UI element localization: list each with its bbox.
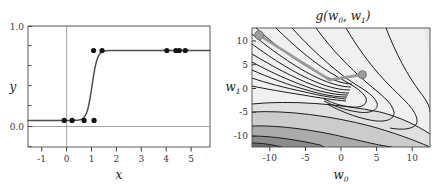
x-axis-ticks — [42, 147, 191, 152]
title-arg1: w — [347, 9, 362, 23]
x-tick-label-1: 0 — [64, 154, 70, 164]
panel-title: g(w0, w1) — [316, 9, 371, 25]
title-close: ) — [365, 9, 371, 23]
data-point — [164, 48, 169, 53]
y-tick-label-neg5: -5 — [239, 107, 248, 117]
y-tick-label-10: 10 — [237, 36, 249, 46]
data-point — [70, 118, 75, 123]
x-tick-label-0: -1 — [37, 154, 46, 164]
x-axis-title: w0 — [333, 168, 348, 184]
data-point — [91, 118, 96, 123]
x-tick-label-2: 1 — [89, 154, 95, 164]
x-axis-title-sub: 0 — [344, 175, 349, 184]
plot-frame — [28, 26, 210, 147]
x-tick-label-4: 3 — [138, 154, 144, 164]
y-axis-title: y — [9, 80, 17, 94]
x-tick-label-10: 10 — [406, 153, 418, 163]
data-point — [91, 48, 96, 53]
panel-cost-surface: g(w0, w1) — [220, 0, 441, 184]
x-tick-label-5: 5 — [374, 153, 380, 163]
y-tick-label-neg10: -10 — [234, 131, 249, 141]
data-point — [62, 118, 67, 123]
classification-fit-svg: 1.0 0.0 -1 0 1 2 3 4 5 — [0, 0, 220, 184]
y-axis-title: w1 — [225, 80, 240, 96]
y-tick-label-1: 1.0 — [10, 22, 25, 32]
x-tick-label-6: 5 — [188, 154, 194, 164]
data-point — [183, 48, 188, 53]
x-tick-label-neg10: -10 — [263, 153, 278, 163]
panel-classification-fit: 1.0 0.0 -1 0 1 2 3 4 5 — [0, 0, 220, 184]
end-marker — [358, 71, 366, 79]
x-tick-label-5: 4 — [163, 154, 169, 164]
x-tick-label-3: 2 — [114, 154, 120, 164]
y-axis-title-sub: 1 — [236, 87, 241, 96]
y-tick-label-0: 0 — [242, 84, 248, 94]
cost-surface-svg: g(w0, w1) — [220, 0, 441, 184]
x-axis-ticks — [270, 147, 412, 151]
data-point — [177, 48, 182, 53]
figure-container: 1.0 0.0 -1 0 1 2 3 4 5 — [0, 0, 441, 184]
data-point — [82, 118, 87, 123]
x-tick-label-neg5: -5 — [301, 153, 310, 163]
y-tick-label-0: 0.0 — [10, 122, 25, 132]
data-point — [99, 48, 104, 53]
y-tick-label-5: 5 — [242, 60, 248, 70]
x-axis-title: x — [116, 168, 123, 182]
x-tick-label-0: 0 — [338, 153, 344, 163]
start-marker — [255, 31, 264, 40]
